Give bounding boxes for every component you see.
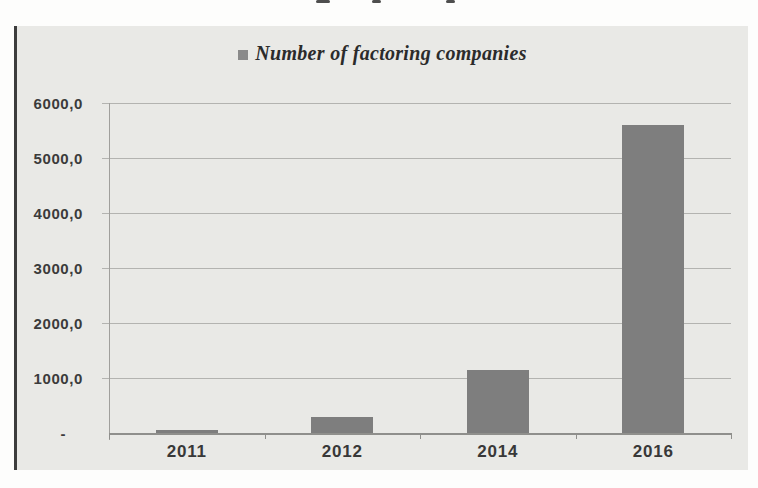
cropped-caption-fragment — [372, 0, 381, 3]
gridline — [102, 103, 731, 104]
x-axis-tick — [109, 433, 110, 439]
legend-marker-icon — [238, 50, 248, 60]
y-tick-label: 4000,0 — [17, 205, 83, 222]
y-tick-label: 1000,0 — [17, 370, 83, 387]
bar-2014 — [467, 370, 529, 433]
x-axis-tick — [420, 433, 421, 439]
x-axis-tick — [265, 433, 266, 439]
y-tick-label: 6000,0 — [17, 95, 83, 112]
bar-2016 — [622, 125, 684, 433]
bar-chart: Number of factoring companies 6000,05000… — [14, 26, 748, 470]
y-axis-line — [109, 103, 110, 440]
x-tick-label: 2012 — [265, 442, 421, 462]
y-tick-label: 3000,0 — [17, 260, 83, 277]
bar-2012 — [311, 417, 373, 434]
x-axis-tick — [576, 433, 577, 439]
chart-legend: Number of factoring companies — [17, 42, 748, 65]
x-axis-tick — [731, 433, 732, 439]
y-tick-label: 5000,0 — [17, 150, 83, 167]
cropped-caption-fragment — [316, 0, 330, 3]
legend-label: Number of factoring companies — [255, 42, 526, 65]
y-tick-label: - — [17, 425, 83, 442]
x-tick-label: 2014 — [420, 442, 576, 462]
cropped-caption-fragment — [446, 0, 455, 3]
y-tick-label: 2000,0 — [17, 315, 83, 332]
x-tick-label: 2016 — [576, 442, 732, 462]
x-tick-label: 2011 — [109, 442, 265, 462]
scanned-figure-page: Number of factoring companies 6000,05000… — [0, 0, 758, 488]
